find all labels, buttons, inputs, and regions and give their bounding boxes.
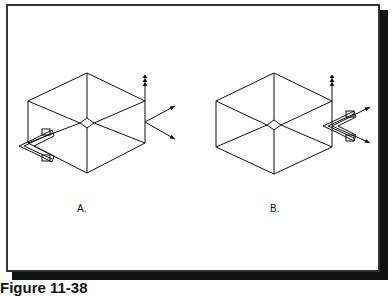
figure-caption: Figure 11-38 (0, 279, 88, 296)
cube-b (216, 73, 332, 174)
axis-arrow-vertical-b (330, 75, 334, 101)
double-arrows-a (19, 129, 54, 162)
panel-label-b: B. (270, 203, 279, 214)
panel-label-a: A. (77, 203, 86, 214)
cube-a (28, 73, 145, 173)
axis-arrows-right-a (145, 107, 173, 138)
axis-arrow-vertical-a (143, 75, 147, 101)
double-arrows-b (323, 111, 356, 141)
